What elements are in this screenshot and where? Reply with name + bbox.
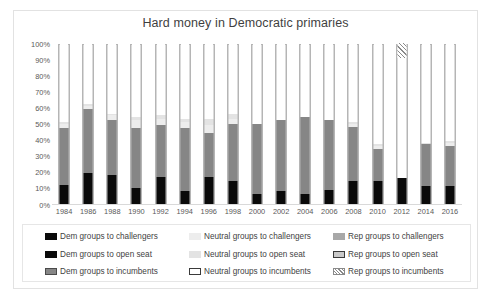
y-axis-tick-label: 30% [16, 153, 50, 160]
bar-segment-dem-chal [204, 190, 213, 204]
bar-column[interactable] [341, 44, 365, 205]
bar-segment-neu-chal [349, 124, 358, 127]
bar-segment-neu-inc [132, 43, 141, 117]
y-axis: 100%90%80%70%60%50%40%30%20%10%0% [14, 44, 50, 205]
legend-swatch-dem-chal [45, 233, 57, 240]
x-axis-tick-label: 1988 [100, 207, 124, 217]
legend-swatch-neu-inc [189, 268, 201, 275]
x-axis-tick-label: 1998 [221, 207, 245, 217]
stacked-bar[interactable] [107, 44, 118, 205]
y-axis-tick-label: 10% [16, 185, 50, 192]
legend-item[interactable]: Dem groups to open seat [45, 250, 152, 259]
x-axis: 1984198619881990199219941996199820002002… [52, 207, 462, 221]
bar-column[interactable] [124, 44, 148, 205]
bar-column[interactable] [414, 44, 438, 205]
bar-column[interactable] [438, 44, 462, 205]
bar-column[interactable] [221, 44, 245, 205]
stacked-bar[interactable] [276, 44, 287, 205]
stacked-bar[interactable] [420, 44, 431, 205]
legend-item[interactable]: Neutral groups to challengers [189, 232, 311, 241]
legend-item[interactable]: Neutral groups to open seat [189, 250, 305, 259]
legend-item[interactable]: Neutral groups to incumbents [189, 267, 311, 276]
x-axis-tick-label: 2006 [317, 207, 341, 217]
stacked-bar[interactable] [324, 44, 335, 205]
stacked-bar[interactable] [227, 44, 238, 205]
bar-column[interactable] [148, 44, 172, 205]
bar-segment-dem-inc [204, 133, 213, 176]
bar-column[interactable] [317, 44, 341, 205]
bar-segment-neu-chal [108, 115, 117, 120]
legend-label: Dem groups to challengers [60, 232, 158, 241]
bar-segment-neu-inc [325, 43, 334, 120]
stacked-bar[interactable] [444, 44, 455, 205]
x-axis-tick-label: 1992 [148, 207, 172, 217]
x-axis-tick-label: 2002 [269, 207, 293, 217]
bar-segment-dem-chal [421, 196, 430, 204]
bar-segment-neu-chal [228, 119, 237, 124]
bar-column[interactable] [269, 44, 293, 205]
bar-column[interactable] [293, 44, 317, 205]
legend-item[interactable]: Dem groups to incumbents [45, 267, 158, 276]
bar-segment-dem-open [252, 194, 261, 199]
bar-segment-dem-chal [108, 188, 117, 204]
stacked-bar[interactable] [155, 44, 166, 205]
bar-segment-dem-inc [325, 120, 334, 189]
bar-column[interactable] [197, 44, 221, 205]
bar-segment-rep-inc [397, 43, 406, 57]
bar-segment-neu-inc [301, 43, 310, 117]
bar-column[interactable] [245, 44, 269, 205]
legend-swatch-dem-open [45, 251, 57, 258]
bar-segment-dem-chal [228, 194, 237, 204]
legend-label: Dem groups to incumbents [60, 267, 158, 276]
y-axis-tick-label: 70% [16, 89, 50, 96]
bar-segment-neu-open [228, 114, 237, 119]
stacked-bar[interactable] [372, 44, 383, 205]
bar-segment-neu-inc [349, 43, 358, 122]
stacked-bar[interactable] [396, 44, 407, 205]
bar-segment-dem-open [325, 190, 334, 196]
bar-column[interactable] [173, 44, 197, 205]
bar-column[interactable] [100, 44, 124, 205]
legend-item[interactable]: Dem groups to challengers [45, 232, 158, 241]
bar-segment-dem-open [445, 186, 454, 196]
stacked-bar[interactable] [83, 44, 94, 205]
bar-segment-neu-inc [228, 43, 237, 114]
bar-segment-neu-chal [180, 122, 189, 128]
bar-segment-dem-chal [84, 185, 93, 204]
bar-segment-dem-inc [84, 109, 93, 173]
y-axis-tick-label: 50% [16, 121, 50, 128]
stacked-bar[interactable] [300, 44, 311, 205]
bar-segment-dem-chal [132, 196, 141, 204]
bar-segment-dem-open [349, 181, 358, 194]
bar-column[interactable] [390, 44, 414, 205]
legend-swatch-dem-inc [45, 268, 57, 275]
bar-segment-neu-chal [60, 124, 69, 129]
bar-segment-neu-chal [156, 119, 165, 125]
legend-item[interactable]: Rep groups to open seat [333, 250, 438, 259]
bar-segment-neu-chal [84, 106, 93, 109]
bar-segment-dem-chal [445, 196, 454, 204]
legend-swatch-rep-chal [333, 233, 345, 240]
legend-item[interactable]: Rep groups to challengers [333, 232, 444, 241]
bar-column[interactable] [366, 44, 390, 205]
bar-segment-dem-open [60, 185, 69, 198]
stacked-bar[interactable] [348, 44, 359, 205]
bar-segment-dem-chal [180, 196, 189, 204]
bar-segment-neu-inc [108, 43, 117, 114]
bar-segment-dem-open [373, 181, 382, 195]
stacked-bar[interactable] [179, 44, 190, 205]
bar-segment-dem-chal [325, 196, 334, 204]
legend-item[interactable]: Rep groups to incumbents [333, 267, 444, 276]
bar-segment-neu-inc [180, 43, 189, 119]
bar-segment-dem-chal [349, 194, 358, 204]
legend-swatch-rep-inc [333, 268, 345, 275]
legend-label: Rep groups to incumbents [348, 267, 444, 276]
stacked-bar[interactable] [251, 44, 262, 205]
stacked-bar[interactable] [131, 44, 142, 205]
y-axis-tick-label: 60% [16, 105, 50, 112]
bar-column[interactable] [52, 44, 76, 205]
x-axis-tick-label: 2012 [390, 207, 414, 217]
stacked-bar[interactable] [59, 44, 70, 205]
stacked-bar[interactable] [203, 44, 214, 205]
bar-column[interactable] [76, 44, 100, 205]
